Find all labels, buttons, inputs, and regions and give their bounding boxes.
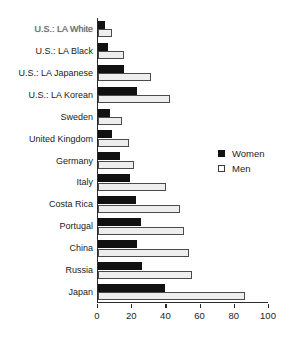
legend-item-men: Men [218, 161, 290, 176]
y-axis-label-0: U.S.: LA White [34, 24, 93, 34]
bar-women [98, 87, 137, 95]
bar-men [98, 139, 129, 147]
open-square-icon [218, 165, 225, 172]
bar-women [98, 109, 110, 117]
x-axis-tick-label: 60 [194, 310, 205, 321]
bar-women [98, 21, 105, 29]
bar-men [98, 95, 170, 103]
bar-women [98, 218, 141, 226]
legend-label-men: Men [232, 163, 250, 174]
bar-men [98, 249, 189, 257]
x-axis-tick-label: 40 [160, 310, 171, 321]
y-axis-label-10: China [69, 243, 93, 253]
y-axis-label-9: Portugal [59, 221, 93, 231]
x-axis-tick [234, 304, 235, 308]
legend-label-women: Women [232, 148, 265, 159]
filled-square-icon [218, 150, 225, 157]
bar-men [98, 183, 166, 191]
bar-men [98, 51, 124, 59]
bar-men [98, 29, 112, 37]
bar-women [98, 284, 165, 292]
x-axis: 020406080100 [97, 304, 268, 324]
bar-men [98, 271, 192, 279]
bar-men [98, 73, 151, 81]
x-axis-tick-label: 0 [94, 310, 99, 321]
bar-chart: U.S.: LA WhiteU.S.: LA BlackU.S.: LA Jap… [0, 0, 294, 338]
y-axis-label-12: Japan [68, 287, 93, 297]
x-axis-tick-label: 80 [229, 310, 240, 321]
x-axis-tick [268, 304, 269, 308]
bar-men [98, 117, 122, 125]
x-axis-tick-label: 100 [260, 310, 276, 321]
bar-women [98, 43, 108, 51]
y-axis-label-2: U.S.: LA Japanese [18, 68, 93, 78]
y-axis-label-5: United Kingdom [29, 134, 93, 144]
y-axis-label-8: Costa Rica [49, 199, 93, 209]
bar-men [98, 205, 180, 213]
y-axis-label-6: Germany [56, 156, 93, 166]
x-axis-tick [200, 304, 201, 308]
bar-men [98, 227, 184, 235]
bar-women [98, 174, 130, 182]
chart-legend: Women Men [218, 146, 290, 176]
bar-men [98, 292, 245, 300]
y-axis-label-11: Russia [65, 265, 93, 275]
y-axis-label-4: Sweden [60, 112, 93, 122]
y-axis-label-3: U.S.: LA Korean [28, 90, 93, 100]
x-axis-tick [131, 304, 132, 308]
bar-women [98, 65, 124, 73]
bar-women [98, 152, 120, 160]
bar-women [98, 240, 137, 248]
y-axis-category-labels: U.S.: LA WhiteU.S.: LA BlackU.S.: LA Jap… [0, 18, 95, 303]
x-axis-tick [97, 304, 98, 308]
legend-item-women: Women [218, 146, 290, 161]
bar-men [98, 161, 134, 169]
y-axis-label-7: Italy [76, 177, 93, 187]
bar-women [98, 196, 136, 204]
x-axis-tick-label: 20 [126, 310, 137, 321]
x-axis-tick [165, 304, 166, 308]
bar-women [98, 262, 142, 270]
y-axis-label-1: U.S.: LA Black [35, 46, 93, 56]
bar-women [98, 130, 112, 138]
